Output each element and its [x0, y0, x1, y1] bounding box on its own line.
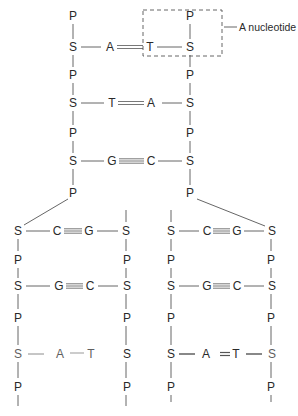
daughter-right-l-phosphate-1: P	[167, 253, 175, 267]
daughter-right-l-sugar-2: S	[167, 279, 175, 293]
base-label: C	[233, 279, 242, 293]
base-label: C	[86, 279, 95, 293]
parent-right-phosphate-2: P	[186, 68, 194, 82]
daughter-left-r-sugar-2: S	[123, 279, 131, 293]
daughter-right-r-phosphate-2: P	[267, 311, 275, 325]
base-label: G	[202, 279, 211, 293]
parent-right-sugar-3: S	[186, 154, 194, 168]
nucleotide-highlight-box	[143, 10, 222, 56]
daughter-right-l-phosphate-2: P	[167, 311, 175, 325]
nucleotide-callout-label: A nucleotide	[239, 21, 296, 33]
daughter-right-r-phosphate-1: P	[267, 253, 275, 267]
daughter-right-r-sugar-2: S	[268, 279, 276, 293]
daughter-left-backbones	[18, 239, 126, 406]
parent-base-pair-2: T A	[81, 96, 182, 110]
parent-left-sugar-3: S	[69, 154, 77, 168]
base-label: T	[232, 347, 240, 361]
base-label: T	[87, 347, 95, 361]
daughter-right-r-sugar-3: S	[268, 347, 276, 361]
parent-base-pair-1: A T	[81, 40, 182, 54]
parent-left-phosphate-1: P	[69, 9, 77, 23]
base-label: T	[108, 96, 116, 110]
base-label: G	[107, 154, 116, 168]
daughter-left-base-pair-2: G C	[26, 279, 118, 293]
daughter-right-base-pair-1: C G	[179, 224, 264, 238]
daughter-left-l-sugar-1: S	[14, 224, 22, 238]
daughter-molecule-right: S P S P S P S P S P S P C G G C	[167, 224, 276, 402]
separation-line-right	[197, 199, 265, 226]
daughter-right-l-sugar-3: S	[167, 347, 175, 361]
daughter-right-l-phosphate-3: P	[167, 380, 175, 394]
daughter-left-r-phosphate-1: P	[123, 253, 131, 267]
daughter-right-backbones	[171, 239, 271, 402]
parent-left-sugar-2: S	[69, 96, 77, 110]
base-label: A	[106, 40, 114, 54]
daughter-right-l-sugar-1: S	[167, 224, 175, 238]
daughter-left-r-sugar-1: S	[122, 224, 130, 238]
base-label: A	[147, 96, 155, 110]
base-label: G	[84, 224, 93, 238]
dna-replication-diagram: P S P S P S P P S P S P S P A T T A	[0, 0, 298, 416]
daughter-molecule-left: S P S P S P S P S P S P C G G C	[14, 224, 131, 406]
daughter-right-base-pair-3: A T	[179, 347, 262, 361]
parent-right-sugar-1: S	[186, 40, 194, 54]
base-label: A	[56, 347, 64, 361]
parent-left-phosphate-4: P	[69, 186, 77, 200]
separation-line-left	[24, 199, 68, 225]
daughter-left-l-sugar-2: S	[14, 279, 22, 293]
parent-right-phosphate-4: P	[186, 186, 194, 200]
parent-molecule: P S P S P S P P S P S P S P A T T A	[69, 9, 296, 200]
daughter-right-r-phosphate-3: P	[267, 380, 275, 394]
base-label: T	[146, 40, 154, 54]
daughter-left-r-phosphate-3: P	[123, 380, 131, 394]
base-label: C	[203, 224, 212, 238]
parent-base-pair-3: G C	[81, 154, 182, 168]
base-label: C	[53, 224, 62, 238]
daughter-right-r-sugar-1: S	[268, 224, 276, 238]
parent-left-phosphate-3: P	[69, 126, 77, 140]
base-label: C	[147, 154, 156, 168]
parent-left-phosphate-2: P	[69, 68, 77, 82]
parent-right-phosphate-3: P	[186, 126, 194, 140]
daughter-left-base-pair-1: C G	[26, 224, 118, 238]
daughter-left-l-phosphate-1: P	[14, 253, 22, 267]
daughter-left-l-phosphate-2: P	[14, 311, 22, 325]
daughter-left-r-sugar-3: S	[123, 347, 131, 361]
daughter-left-l-sugar-3: S	[14, 347, 22, 361]
daughter-right-base-pair-2: G C	[179, 279, 264, 293]
base-label: G	[232, 224, 241, 238]
parent-left-sugar-1: S	[69, 40, 77, 54]
parent-right-sugar-2: S	[186, 96, 194, 110]
base-label: G	[54, 279, 63, 293]
daughter-left-r-phosphate-2: P	[123, 311, 131, 325]
base-label: A	[202, 347, 210, 361]
daughter-left-l-phosphate-3: P	[14, 380, 22, 394]
daughter-left-base-pair-3: A T	[28, 347, 95, 361]
parent-right-phosphate-1: P	[186, 9, 194, 23]
